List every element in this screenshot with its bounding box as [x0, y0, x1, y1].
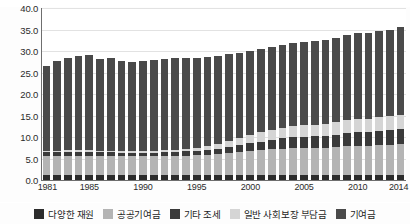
bar-segment [322, 148, 330, 176]
bar-segment [85, 55, 93, 150]
bar-segment [139, 156, 147, 175]
bar-segment [289, 126, 297, 137]
legend-item[interactable]: 기타 조세 [170, 207, 221, 221]
y-axis-line [41, 8, 42, 181]
x-axis-tick-label: 1995 [187, 182, 206, 192]
legend-item[interactable]: 일반 사회보장 부담금 [230, 207, 327, 221]
bar-segment [289, 43, 297, 126]
bar-segment [332, 147, 340, 175]
bar-segment [204, 57, 212, 146]
bar-2007 [322, 40, 330, 180]
bar-2000 [246, 51, 254, 180]
legend-item[interactable]: 공공기여금 [103, 207, 161, 221]
bar-1985 [85, 55, 93, 180]
bar-1999 [236, 53, 244, 180]
legend-swatch-icon [336, 209, 346, 219]
bar-1983 [64, 58, 72, 180]
legend-label: 기타 조세 [184, 207, 221, 221]
bar-1993 [171, 58, 179, 181]
legend-item[interactable]: 기여금 [336, 207, 376, 221]
bar-2012 [375, 31, 383, 180]
bar-segment [236, 152, 244, 175]
y-axis-tick-label: 15.0 [2, 110, 38, 121]
bar-segment [107, 156, 115, 175]
bar-2013 [386, 30, 394, 180]
bar-segment [375, 31, 383, 117]
bar-segment [193, 58, 201, 148]
x-axis-tick-label: 1981 [38, 182, 57, 192]
bar-segment [85, 156, 93, 176]
bar-segment [365, 119, 373, 132]
y-axis-tick-label: 40.0 [2, 3, 38, 14]
bar-segment [386, 30, 394, 117]
bar-segment [43, 66, 51, 151]
bar-segment [397, 115, 405, 129]
legend-label: 일반 사회보장 부담금 [244, 207, 327, 221]
bar-segment [75, 56, 83, 151]
legend-item[interactable]: 다양한 재원 [34, 207, 94, 221]
bar-segment [193, 155, 201, 175]
bar-segment [236, 138, 244, 145]
bar-segment [365, 33, 373, 119]
bar-segment [397, 129, 405, 144]
bar-segment [332, 38, 340, 122]
y-axis-tick-label: 0.0 [2, 175, 38, 186]
y-axis-tick-label: 5.0 [2, 153, 38, 164]
bar-1995 [193, 58, 201, 180]
x-axis-tick-label: 2000 [241, 182, 260, 192]
bar-1988 [118, 61, 126, 180]
bar-segment [107, 58, 115, 151]
bar-1998 [225, 54, 233, 180]
bar-segment [64, 156, 72, 176]
bar-segment [246, 143, 254, 151]
bar-segment [43, 156, 51, 175]
bar-segment [354, 119, 362, 132]
bar-segment [128, 62, 136, 151]
bar-2003 [279, 45, 287, 180]
top-cropped-strip [0, 0, 410, 7]
bar-1982 [53, 61, 61, 180]
bar-segment [322, 40, 330, 123]
bar-segment [300, 137, 308, 148]
bar-segment [375, 117, 383, 131]
bar-segment [128, 156, 136, 175]
bar-2009 [343, 35, 351, 180]
x-axis-tick-label: 2010 [348, 182, 367, 192]
bar-segment [375, 145, 383, 175]
bar-segment [289, 148, 297, 175]
bar-segment [386, 130, 394, 145]
bar-segment [268, 149, 276, 175]
bar-segment [343, 133, 351, 146]
bar-segment [397, 27, 405, 115]
x-axis-tick-label: 1985 [80, 182, 99, 192]
bar-segment [365, 146, 373, 176]
chart-figure: 40.035.030.025.020.015.010.05.00.0 19811… [0, 0, 410, 224]
bar-segment [354, 132, 362, 145]
bar-segment [375, 131, 383, 145]
bar-segment [225, 54, 233, 140]
bar-segment [53, 61, 61, 150]
legend-label: 다양한 재원 [48, 207, 94, 221]
bar-segment [279, 45, 287, 128]
bar-segment [214, 56, 222, 144]
bar-segment [64, 58, 72, 150]
legend-label: 공공기여금 [117, 207, 161, 221]
bar-segment [343, 120, 351, 133]
bar-segment [300, 148, 308, 176]
bar-segment [161, 156, 169, 175]
bar-segment [300, 42, 308, 125]
bar-segment [322, 136, 330, 148]
bar-segment [257, 142, 265, 151]
bar-2014 [397, 27, 405, 180]
bar-segment [214, 154, 222, 176]
bar-1992 [161, 59, 169, 180]
legend-divider [0, 202, 410, 203]
legend-swatch-icon [103, 209, 113, 219]
bar-1990 [139, 61, 147, 180]
bar-1994 [182, 58, 190, 180]
bar-segment [332, 122, 340, 134]
x-axis-labels: 19811985199019952000200520102014 [41, 182, 406, 196]
bar-segment [279, 149, 287, 176]
bar-2011 [365, 33, 373, 180]
legend-swatch-icon [34, 209, 44, 219]
